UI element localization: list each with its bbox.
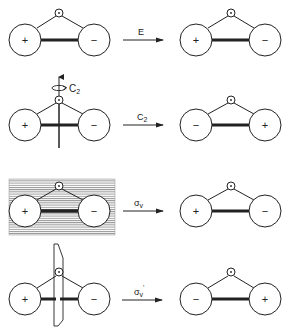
operation-label: C2 [137, 112, 148, 123]
operation-arrow: E [123, 27, 163, 40]
molecule-before: + − [9, 179, 115, 235]
left-sign: + [22, 293, 28, 305]
molecule-after: + − [180, 9, 281, 56]
row-identity: + − E + − [9, 9, 281, 56]
right-sign: − [91, 205, 97, 217]
operation-arrow: σv' [122, 284, 162, 300]
left-sign: + [193, 205, 199, 217]
left-sign: + [22, 119, 28, 131]
operation-arrow: C2 [123, 112, 163, 125]
operation-label: σv [134, 198, 144, 209]
row-sigma-v: + − σv + − [9, 179, 281, 235]
right-sign: − [262, 34, 268, 46]
left-sign: + [22, 205, 28, 217]
right-sign: − [91, 293, 97, 305]
row-c2-rotation: C2 + − C2 − + [9, 77, 281, 148]
operation-label: E [138, 27, 144, 37]
operation-arrow: σv [123, 198, 163, 211]
symmetry-operations-diagram: + − E + − [0, 0, 291, 328]
molecule-before: + − [9, 9, 110, 56]
operation-label: σv' [134, 284, 144, 298]
right-sign: − [262, 205, 268, 217]
left-sign: + [193, 34, 199, 46]
molecule-after: − + [180, 96, 281, 141]
left-sign: − [193, 119, 199, 131]
mirror-plane [54, 244, 63, 326]
row-sigma-v-prime: + − σv' − + [9, 244, 281, 326]
molecule-before: C2 + − [9, 77, 110, 148]
left-sign: − [193, 293, 199, 305]
axis-label: C2 [69, 83, 80, 95]
left-sign: + [22, 34, 28, 46]
molecule-after: + − [180, 182, 281, 227]
right-sign: + [262, 293, 268, 305]
right-sign: − [91, 34, 97, 46]
molecule-after: − + [180, 268, 281, 315]
right-sign: − [91, 119, 97, 131]
molecule-before: + − [9, 244, 110, 326]
right-sign: + [262, 119, 268, 131]
